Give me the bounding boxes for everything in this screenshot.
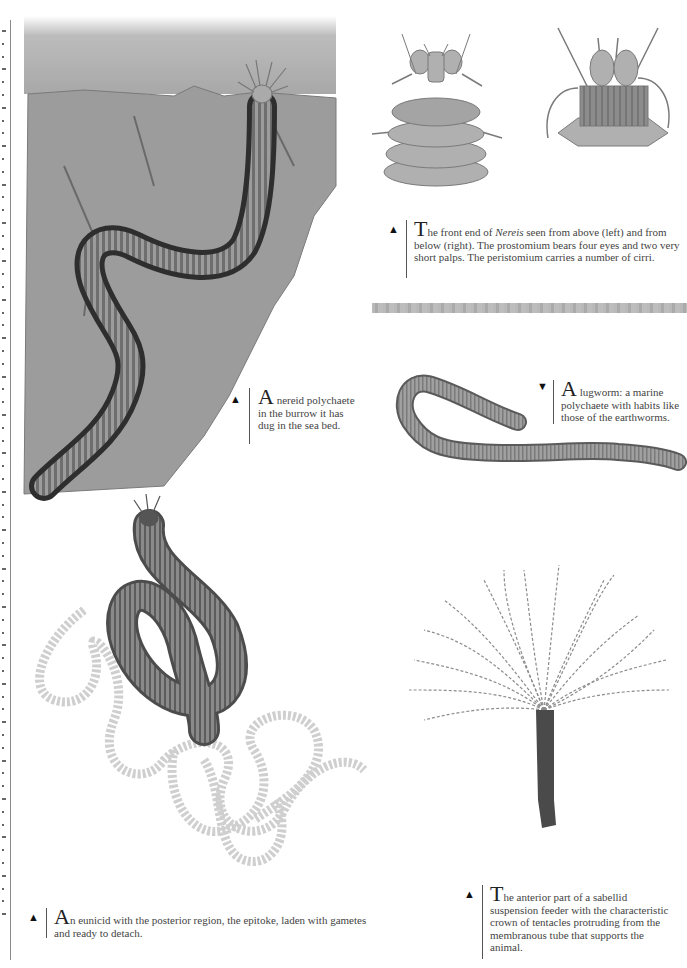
gutter-text-fragment	[2, 30, 6, 32]
gutter-text-fragment	[2, 68, 6, 70]
genus-name: Nereis	[495, 226, 523, 238]
gutter-text-fragment	[2, 273, 4, 275]
gutter-text-fragment	[2, 222, 6, 224]
caption-text: lugworm: a marine polychaete with habits…	[561, 386, 679, 423]
gutter-text-fragment	[2, 209, 4, 211]
gutter-text-fragment	[2, 516, 4, 518]
gutter-text-fragment	[2, 849, 4, 851]
gutter-text-fragment	[2, 683, 6, 685]
cropped-text-column-edge	[0, 30, 8, 930]
triangle-up-icon: ▲	[230, 393, 241, 406]
gutter-text-fragment	[2, 388, 4, 390]
caption-rule	[249, 388, 250, 444]
gutter-text-fragment	[2, 337, 6, 339]
gutter-text-fragment	[2, 401, 4, 403]
gutter-text-fragment	[2, 875, 6, 877]
caption-text: n eunicid with the posterior region, the…	[54, 914, 366, 939]
gutter-text-fragment	[2, 171, 4, 173]
gutter-text-fragment	[2, 798, 6, 800]
gutter-text-fragment	[2, 452, 6, 454]
caption-nereis: ▲ The front end of Nereis seen from abov…	[386, 220, 686, 280]
eunicid-illustration	[24, 500, 384, 880]
drop-cap: T	[490, 881, 503, 906]
triangle-up-icon: ▲	[28, 911, 39, 924]
gutter-text-fragment	[2, 632, 4, 634]
gutter-text-fragment	[2, 248, 4, 250]
gutter-text-fragment	[2, 824, 4, 826]
gutter-text-fragment	[2, 760, 6, 762]
triangle-up-icon: ▲	[388, 223, 399, 236]
gutter-text-fragment	[2, 862, 4, 864]
drop-cap: A	[258, 384, 274, 409]
gutter-text-fragment	[2, 900, 4, 902]
gutter-text-fragment	[2, 606, 6, 608]
caption-eunicid: ▲ An eunicid with the posterior region, …	[28, 908, 368, 944]
caption-rule	[46, 908, 47, 938]
gutter-text-fragment	[2, 721, 6, 723]
gutter-text-fragment	[2, 235, 4, 237]
membranous-tube	[536, 710, 556, 828]
gutter-text-fragment	[2, 81, 4, 83]
gutter-text-fragment	[2, 670, 4, 672]
triangle-down-icon: ▼	[537, 380, 548, 393]
caption-nereid: ▲ A nereid polychaete in the burrow it h…	[226, 388, 356, 444]
gutter-text-fragment	[2, 107, 6, 109]
gutter-text-fragment	[2, 440, 4, 442]
gutter-text-fragment	[2, 324, 4, 326]
gutter-text-fragment	[2, 478, 4, 480]
gutter-text-fragment	[2, 657, 4, 659]
drop-cap: A	[54, 904, 70, 929]
gutter-text-fragment	[2, 414, 6, 416]
gutter-text-fragment	[2, 619, 4, 621]
caption-rule	[406, 220, 407, 278]
drop-cap: T	[414, 216, 427, 241]
gutter-text-fragment	[2, 580, 4, 582]
gutter-text-fragment	[2, 158, 4, 160]
tentacle-crown	[409, 565, 669, 720]
gutter-text-fragment	[2, 734, 4, 736]
gutter-text-fragment	[2, 184, 6, 186]
gutter-text-fragment	[2, 888, 4, 890]
gutter-text-fragment	[2, 772, 4, 774]
gutter-text-fragment	[2, 56, 4, 58]
gutter-text-fragment	[2, 708, 4, 710]
gutter-text-fragment	[2, 260, 6, 262]
gutter-text-fragment	[2, 145, 6, 147]
gutter-text-fragment	[2, 529, 6, 531]
caption-rule	[553, 380, 554, 424]
drop-cap: A	[561, 376, 577, 401]
gutter-text-fragment	[2, 785, 4, 787]
gutter-text-fragment	[2, 286, 4, 288]
nereis-front-below-illustration	[538, 18, 678, 158]
gutter-text-fragment	[2, 504, 4, 506]
gutter-text-fragment	[2, 811, 4, 813]
caption-text: he anterior part of a sabellid suspensio…	[490, 891, 668, 953]
gutter-text-fragment	[2, 491, 6, 493]
gutter-text-fragment	[2, 913, 6, 915]
gutter-text-fragment	[2, 644, 6, 646]
gutter-text-fragment	[2, 747, 4, 749]
gutter-text-fragment	[2, 376, 6, 378]
water-region	[24, 16, 336, 94]
triangle-up-icon: ▲	[464, 888, 475, 901]
caption-text: he front end of	[427, 226, 495, 238]
gutter-text-fragment	[2, 696, 4, 698]
gutter-text-fragment	[2, 196, 4, 198]
gutter-text-fragment	[2, 593, 4, 595]
gutter-text-fragment	[2, 363, 4, 365]
sabellid-illustration	[404, 560, 674, 840]
gutter-text-fragment	[2, 350, 4, 352]
caption-lugworm: ▼ A lugworm: a marine polychaete with ha…	[535, 380, 687, 428]
gutter-text-fragment	[2, 312, 4, 314]
gutter-text-fragment	[2, 568, 6, 570]
gutter-text-fragment	[2, 94, 4, 96]
gutter-text-fragment	[2, 836, 6, 838]
caption-sabellid: ▲ The anterior part of a sabellid suspen…	[462, 885, 684, 965]
nereis-front-above-illustration	[372, 14, 502, 184]
section-divider	[372, 303, 687, 313]
gutter-text-fragment	[2, 299, 6, 301]
gutter-text-fragment	[2, 120, 4, 122]
gutter-text-fragment	[2, 465, 4, 467]
gutter-text-fragment	[2, 132, 4, 134]
gutter-text-fragment	[2, 43, 4, 45]
